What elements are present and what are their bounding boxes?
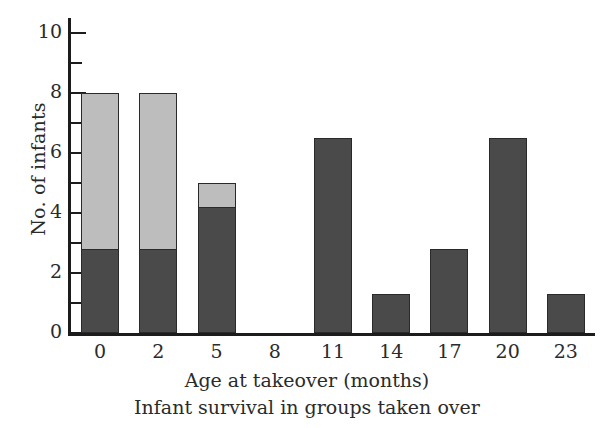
y-axis-tick-label: 4 <box>22 200 62 222</box>
bar-segment-survived <box>547 294 585 333</box>
bar-segment-survived <box>81 249 119 333</box>
x-axis-line <box>68 333 595 336</box>
x-axis-tick-label: 14 <box>361 340 421 362</box>
x-axis-tick-label: 8 <box>245 340 305 362</box>
x-axis-title: Age at takeover (months) <box>0 369 614 391</box>
bar-segment-died <box>139 93 177 249</box>
bar <box>81 93 119 333</box>
bar-segment-survived <box>314 138 352 333</box>
bar-segment-died <box>81 93 119 249</box>
bar <box>198 183 236 333</box>
y-axis-tick-label: 6 <box>22 140 62 162</box>
y-axis-tick-label: 8 <box>22 80 62 102</box>
x-axis-tick-label: 5 <box>187 340 247 362</box>
x-axis-tick-label: 2 <box>128 340 188 362</box>
bar <box>547 294 585 333</box>
x-axis-tick-label: 17 <box>419 340 479 362</box>
figure-caption: Infant survival in groups taken over <box>0 396 614 418</box>
x-axis-tick-label: 20 <box>478 340 538 362</box>
x-axis-tick-label: 23 <box>536 340 596 362</box>
chart-figure: No. of infants 0246810 02581114172023 Ag… <box>0 0 614 428</box>
x-axis-tick-label: 11 <box>303 340 363 362</box>
bar <box>314 138 352 333</box>
y-axis-tick-label: 2 <box>22 260 62 282</box>
x-axis-tick-label: 0 <box>70 340 130 362</box>
bar-segment-survived <box>430 249 468 333</box>
bar <box>372 294 410 333</box>
bar-segment-survived <box>372 294 410 333</box>
bar-segment-survived <box>489 138 527 333</box>
bar <box>430 249 468 333</box>
bar-segment-died <box>198 183 236 207</box>
bar-segment-survived <box>198 207 236 333</box>
y-axis-tick-label: 0 <box>22 320 62 342</box>
bar <box>489 138 527 333</box>
y-axis-tick-label: 10 <box>22 20 62 42</box>
bar-segment-survived <box>139 249 177 333</box>
bar <box>139 93 177 333</box>
plot-area <box>71 18 595 333</box>
